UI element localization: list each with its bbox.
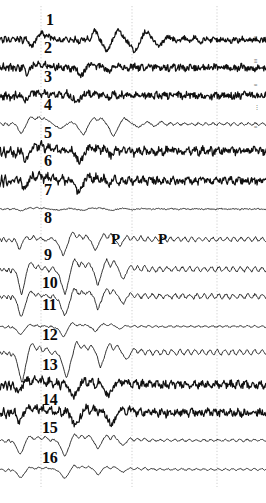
- channel-label-6: 6: [44, 153, 52, 169]
- edge-mark-2: ≡: [254, 58, 258, 64]
- edge-mark-4: ⋮: [254, 104, 260, 110]
- channel-label-9: 9: [44, 247, 52, 263]
- channel-label-4: 4: [44, 97, 52, 113]
- eeg-trace-channel-16: [0, 465, 266, 479]
- channel-label-2: 2: [44, 40, 52, 56]
- gridline-group: [41, 6, 217, 487]
- eeg-trace-channel-15: [0, 434, 266, 456]
- eeg-trace-channel-5: [0, 141, 266, 165]
- channel-label-15: 15: [42, 420, 57, 436]
- channel-label-11: 11: [42, 297, 57, 313]
- channel-label-7: 7: [44, 182, 52, 198]
- channel-label-14: 14: [42, 392, 57, 408]
- eeg-trace-channel-13: [0, 376, 266, 400]
- channel-label-10: 10: [42, 275, 57, 291]
- channel-label-13: 13: [42, 357, 57, 373]
- eeg-trace-channel-3: [0, 90, 266, 103]
- eeg-trace-channel-2: [0, 61, 266, 77]
- edge-mark-3: ≈: [254, 82, 257, 88]
- edge-mark-1: ≈: [254, 34, 257, 40]
- p-marker-2: P: [158, 232, 167, 247]
- channel-label-8: 8: [44, 210, 52, 226]
- eeg-plot-area: [0, 0, 266, 503]
- channel-label-1: 1: [46, 12, 54, 28]
- channel-label-12: 12: [42, 327, 57, 343]
- eeg-trace-channel-6: [0, 171, 266, 194]
- eeg-trace-channel-9: [0, 259, 266, 295]
- eeg-trace-channel-4: [0, 117, 266, 137]
- eeg-trace-channel-10: [0, 288, 266, 316]
- p-marker-1: P: [111, 232, 120, 247]
- channel-label-16: 16: [42, 450, 57, 466]
- trace-group: [0, 29, 266, 479]
- eeg-trace-channel-1: [0, 29, 266, 53]
- eeg-trace-channel-12: [0, 341, 266, 382]
- eeg-trace-channel-11: [0, 323, 266, 337]
- edge-mark-5: ≈: [254, 124, 257, 130]
- eeg-trace-channel-8: [0, 232, 266, 256]
- eeg-trace-channel-7: [0, 207, 266, 211]
- channel-label-5: 5: [44, 125, 52, 141]
- channel-label-3: 3: [44, 69, 52, 85]
- eeg-figure: 12345678910111213141516 PP ≈≡≈⋮≈: [0, 0, 266, 503]
- eeg-trace-channel-14: [0, 404, 266, 427]
